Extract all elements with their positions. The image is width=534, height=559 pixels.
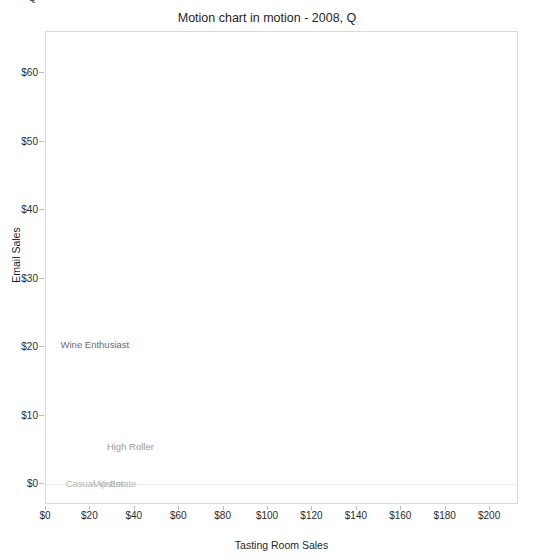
y-axis-tick-mark: [39, 209, 44, 210]
x-axis-tick-label: $200: [478, 510, 500, 521]
x-axis-tick-mark: [356, 506, 357, 510]
y-axis-tick-mark: [39, 278, 44, 279]
data-point-label[interactable]: Wine Enthusiast: [61, 338, 130, 349]
x-axis-title: Tasting Room Sales: [45, 539, 518, 551]
chart-title: Motion chart in motion - 2008, Q: [0, 11, 534, 25]
x-axis-tick-mark: [45, 506, 46, 510]
y-axis-tick-mark: [39, 346, 44, 347]
x-axis-tick-mark: [178, 506, 179, 510]
x-axis-ticks: $0$20$40$60$80$100$120$140$160$180$200: [45, 506, 518, 526]
x-axis-tick-label: $140: [345, 510, 367, 521]
y-axis-tick-marks: [0, 31, 45, 504]
x-axis-tick-label: $120: [300, 510, 322, 521]
x-axis-tick-mark: [267, 506, 268, 510]
x-axis-tick-mark: [89, 506, 90, 510]
x-axis-tick-label: $40: [125, 510, 142, 521]
x-axis-tick-mark: [134, 506, 135, 510]
x-axis-tick-label: $180: [434, 510, 456, 521]
x-axis-tick-label: $20: [81, 510, 98, 521]
clipped-text-fragment: Q: [28, 0, 37, 3]
x-axis-tick-label: $60: [170, 510, 187, 521]
y-axis-tick-mark: [39, 483, 44, 484]
x-axis-tick-label: $160: [389, 510, 411, 521]
x-axis-tick-mark: [400, 506, 401, 510]
x-axis-tick-mark: [223, 506, 224, 510]
x-axis-tick-mark: [445, 506, 446, 510]
data-point-label[interactable]: High Roller: [107, 441, 154, 452]
y-axis-tick-mark: [39, 72, 44, 73]
x-axis-tick-label: $100: [256, 510, 278, 521]
x-axis-tick-label: $0: [39, 510, 50, 521]
motion-chart: Q Motion chart in motion - 2008, Q $0$10…: [0, 0, 534, 559]
x-axis-tick-mark: [489, 506, 490, 510]
x-axis-tick-mark: [311, 506, 312, 510]
y-axis-title: Email Sales: [10, 215, 22, 295]
y-axis-tick-mark: [39, 141, 44, 142]
plot-area: Wine EnthusiastHigh RollerCasual Visitor…: [45, 31, 518, 504]
data-point-label[interactable]: Vip Estate: [93, 478, 136, 489]
y-axis-tick-mark: [39, 415, 44, 416]
x-axis-tick-label: $80: [214, 510, 231, 521]
